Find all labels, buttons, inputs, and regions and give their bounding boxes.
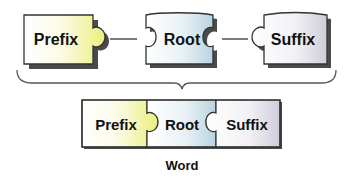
- grouping-brace: [17, 70, 336, 89]
- suffix-label: Suffix: [271, 32, 315, 48]
- prefix-label: Prefix: [34, 32, 78, 48]
- root-label: Root: [164, 32, 200, 48]
- combined-root-label: Root: [165, 117, 199, 132]
- combined-suffix-label: Suffix: [226, 117, 268, 132]
- word-caption: Word: [166, 159, 199, 172]
- combined-prefix-label: Prefix: [95, 117, 137, 132]
- diagram-artwork: [0, 0, 350, 181]
- morpheme-diagram: Prefix Root Suffix Prefix Root Suffix Wo…: [0, 0, 350, 181]
